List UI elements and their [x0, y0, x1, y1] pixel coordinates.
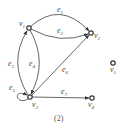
- node-v2: [89, 31, 93, 35]
- label-v3: v3: [32, 100, 39, 110]
- label-e4: e4: [29, 59, 36, 69]
- label-e2: e2: [57, 26, 64, 36]
- label-v5: v5: [110, 65, 117, 75]
- label-e7: e7: [61, 87, 68, 97]
- label-e1: e1: [57, 5, 63, 15]
- node-v1: [27, 26, 31, 30]
- figure-caption: (2): [54, 114, 64, 123]
- label-v4: v4: [88, 100, 95, 110]
- edge-e7: [32, 97, 89, 98]
- label-e6: e6: [62, 65, 69, 75]
- graph-diagram: v1 v2 v3 v4 v5 e1 e2 e3 e4 e5 e6 e7 (2): [0, 0, 123, 134]
- edge-e6: [31, 35, 89, 96]
- edge-e5-loop: [17, 93, 28, 100]
- node-v3: [28, 95, 32, 99]
- label-e5: e5: [9, 83, 16, 93]
- label-v2: v2: [94, 31, 101, 41]
- label-v1: v1: [19, 19, 25, 29]
- edge-e3: [18, 31, 28, 95]
- label-e3: e3: [8, 59, 15, 69]
